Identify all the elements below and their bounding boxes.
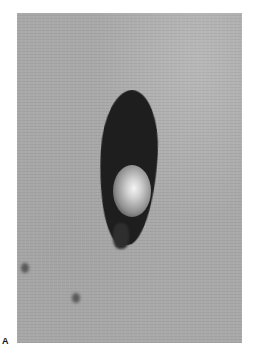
panel-label: A	[2, 336, 9, 346]
skin-lesion-photo	[17, 13, 242, 343]
lesion-center-highlight	[113, 165, 151, 217]
lesion-tail	[113, 223, 129, 249]
small-skin-spot	[21, 263, 29, 273]
small-skin-spot	[72, 293, 80, 303]
